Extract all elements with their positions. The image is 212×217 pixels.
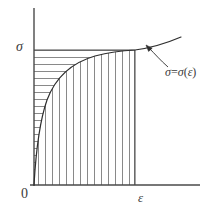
x-axis-label: ε: [138, 191, 143, 204]
plot-canvas: [0, 0, 212, 217]
origin-label: 0: [21, 187, 28, 201]
curve-equation-annotation: σ=σ(ε): [165, 66, 196, 78]
equation-close-paren: ): [192, 65, 196, 79]
stress-strain-figure: σ ε 0 σ=σ(ε): [0, 0, 212, 217]
vertical-hatch-region: [38, 45, 134, 185]
y-axis-label: σ: [16, 40, 23, 54]
sigma-epsilon-curve: [34, 37, 181, 185]
equation-equals-sign: =: [171, 65, 178, 79]
